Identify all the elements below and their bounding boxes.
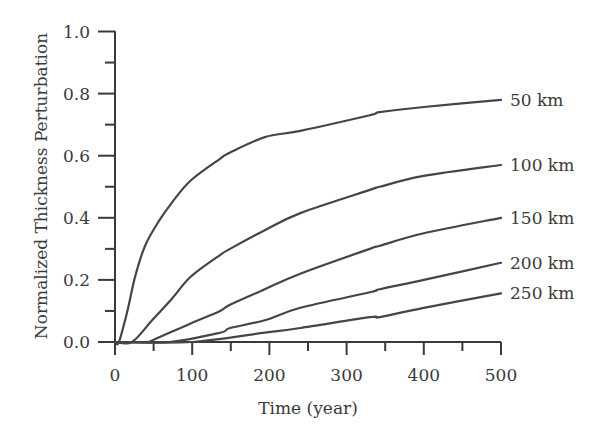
y-axis-label: Normalized Thickness Perturbation	[31, 33, 51, 339]
line-chart: 0100200300400500 0.00.20.40.60.81.0 50 k…	[0, 0, 603, 435]
x-tick-label: 500	[485, 365, 517, 385]
x-ticks: 0100200300400500	[110, 342, 518, 385]
x-axis-label: Time (year)	[258, 398, 358, 418]
series-label: 200 km	[510, 253, 574, 273]
x-tick-label: 400	[408, 365, 440, 385]
series-label: 150 km	[510, 208, 574, 228]
y-ticks: 0.00.20.40.60.81.0	[63, 22, 115, 353]
x-tick-label: 300	[330, 365, 362, 385]
series-label: 50 km	[510, 90, 563, 110]
curve-150-km	[115, 218, 501, 342]
curves	[115, 100, 501, 345]
x-tick-label: 100	[176, 365, 208, 385]
x-tick-label: 0	[110, 365, 121, 385]
y-tick-label: 0.8	[63, 84, 90, 104]
curve-50-km	[115, 100, 501, 345]
y-tick-label: 0.2	[63, 270, 90, 290]
x-tick-label: 200	[253, 365, 285, 385]
y-tick-label: 0.4	[63, 208, 90, 228]
series-labels: 50 km100 km150 km200 km250 km	[510, 90, 574, 303]
chart: 0100200300400500 0.00.20.40.60.81.0 50 k…	[0, 0, 603, 435]
axes	[115, 31, 501, 342]
curve-100-km	[115, 165, 501, 344]
series-label: 100 km	[510, 155, 574, 175]
y-tick-label: 0.0	[63, 332, 90, 352]
curve-250-km	[115, 293, 501, 342]
y-tick-label: 0.6	[63, 146, 90, 166]
y-tick-label: 1.0	[63, 22, 90, 42]
series-label: 250 km	[510, 283, 574, 303]
